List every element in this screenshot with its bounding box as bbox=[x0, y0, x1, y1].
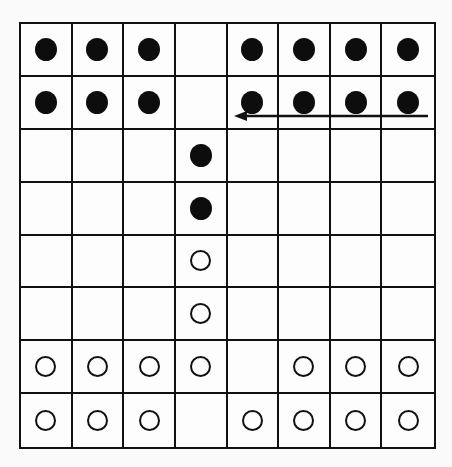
black-piece-icon bbox=[138, 38, 160, 61]
board-cell-r2-c7 bbox=[382, 130, 434, 183]
board-cell-r0-c4 bbox=[228, 24, 280, 77]
board-cell-r3-c4 bbox=[228, 183, 280, 236]
board-cell-r7-c2 bbox=[124, 394, 176, 447]
board-cell-r5-c1 bbox=[73, 288, 125, 341]
black-piece-icon bbox=[397, 38, 419, 61]
board-cell-r3-c2 bbox=[124, 183, 176, 236]
board-cell-r0-c6 bbox=[331, 24, 383, 77]
board-cell-r7-c6 bbox=[331, 394, 383, 447]
black-piece-icon bbox=[86, 38, 108, 61]
board-cell-r7-c1 bbox=[73, 394, 125, 447]
white-piece-icon bbox=[35, 410, 56, 431]
white-piece-icon bbox=[190, 303, 211, 324]
black-piece-icon bbox=[35, 91, 57, 114]
board-cell-r6-c0 bbox=[21, 341, 73, 394]
board-cell-r6-c1 bbox=[73, 341, 125, 394]
white-piece-icon bbox=[190, 250, 211, 271]
board-cell-r6-c7 bbox=[382, 341, 434, 394]
board-cell-r6-c5 bbox=[279, 341, 331, 394]
board-cell-r7-c3 bbox=[176, 394, 228, 447]
board-cell-r2-c1 bbox=[73, 130, 125, 183]
board-cell-r5-c0 bbox=[21, 288, 73, 341]
white-piece-icon bbox=[139, 410, 160, 431]
board-cell-r4-c5 bbox=[279, 236, 331, 289]
board-cell-r1-c3 bbox=[176, 77, 228, 130]
board-cell-r0-c5 bbox=[279, 24, 331, 77]
white-piece-icon bbox=[87, 410, 108, 431]
board-cell-r4-c6 bbox=[331, 236, 383, 289]
board-cell-r4-c1 bbox=[73, 236, 125, 289]
board-cell-r6-c3 bbox=[176, 341, 228, 394]
white-piece-icon bbox=[398, 356, 419, 377]
black-piece-icon bbox=[86, 91, 108, 114]
board-cell-r3-c7 bbox=[382, 183, 434, 236]
board-cell-r0-c3 bbox=[176, 24, 228, 77]
white-piece-icon bbox=[345, 410, 366, 431]
board-cell-r4-c3 bbox=[176, 236, 228, 289]
white-piece-icon bbox=[398, 410, 419, 431]
board-cell-r2-c6 bbox=[331, 130, 383, 183]
white-piece-icon bbox=[345, 356, 366, 377]
black-piece-icon bbox=[35, 38, 57, 61]
board-cell-r5-c6 bbox=[331, 288, 383, 341]
white-piece-icon bbox=[293, 356, 314, 377]
white-piece-icon bbox=[242, 410, 263, 431]
board-cell-r3-c0 bbox=[21, 183, 73, 236]
board-cell-r7-c4 bbox=[228, 394, 280, 447]
board-cell-r6-c4 bbox=[228, 341, 280, 394]
board-cell-r6-c6 bbox=[331, 341, 383, 394]
move-arrow-left-icon bbox=[234, 110, 430, 122]
board-cell-r0-c1 bbox=[73, 24, 125, 77]
board-cell-r2-c4 bbox=[228, 130, 280, 183]
board-cell-r3-c3 bbox=[176, 183, 228, 236]
black-piece-icon bbox=[190, 144, 212, 167]
board-cell-r3-c6 bbox=[331, 183, 383, 236]
board-cell-r7-c7 bbox=[382, 394, 434, 447]
board-cell-r3-c1 bbox=[73, 183, 125, 236]
board-cell-r6-c2 bbox=[124, 341, 176, 394]
board-cell-r1-c1 bbox=[73, 77, 125, 130]
board-cell-r4-c4 bbox=[228, 236, 280, 289]
board-cell-r0-c2 bbox=[124, 24, 176, 77]
board-cell-r5-c7 bbox=[382, 288, 434, 341]
board-cell-r0-c7 bbox=[382, 24, 434, 77]
board-cell-r5-c4 bbox=[228, 288, 280, 341]
board-cell-r3-c5 bbox=[279, 183, 331, 236]
board-cell-r5-c2 bbox=[124, 288, 176, 341]
board-cell-r0-c0 bbox=[21, 24, 73, 77]
board-cell-r2-c3 bbox=[176, 130, 228, 183]
white-piece-icon bbox=[293, 410, 314, 431]
board-cell-r2-c2 bbox=[124, 130, 176, 183]
black-piece-icon bbox=[345, 38, 367, 61]
board-cell-r4-c0 bbox=[21, 236, 73, 289]
white-piece-icon bbox=[139, 356, 160, 377]
board-cell-r7-c0 bbox=[21, 394, 73, 447]
black-piece-icon bbox=[241, 38, 263, 61]
black-piece-icon bbox=[293, 38, 315, 61]
board-cell-r1-c0 bbox=[21, 77, 73, 130]
board-cell-r2-c5 bbox=[279, 130, 331, 183]
board-cell-r1-c2 bbox=[124, 77, 176, 130]
board-cell-r5-c3 bbox=[176, 288, 228, 341]
black-piece-icon bbox=[138, 91, 160, 114]
white-piece-icon bbox=[87, 356, 108, 377]
board-cell-r4-c2 bbox=[124, 236, 176, 289]
white-piece-icon bbox=[35, 356, 56, 377]
black-piece-icon bbox=[190, 197, 212, 220]
game-board bbox=[19, 22, 436, 449]
board-cell-r4-c7 bbox=[382, 236, 434, 289]
board-cell-r7-c5 bbox=[279, 394, 331, 447]
board-cell-r5-c5 bbox=[279, 288, 331, 341]
white-piece-icon bbox=[190, 356, 211, 377]
board-cell-r2-c0 bbox=[21, 130, 73, 183]
